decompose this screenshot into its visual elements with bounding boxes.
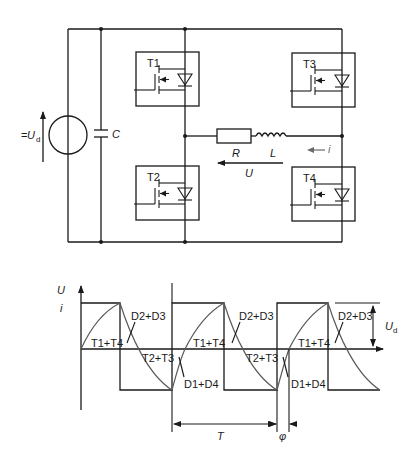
amplitude-label-sub: d	[393, 326, 397, 335]
current-label: i	[328, 143, 331, 155]
junction-dot	[183, 240, 187, 244]
switch-module-t2	[134, 166, 199, 220]
annotation-pointer	[179, 357, 184, 377]
circuit: = U d C R L U i	[21, 27, 344, 244]
junction-dot	[99, 240, 103, 244]
annotation-t1t4: T1+T4	[91, 337, 123, 349]
annotation-t1t4: T1+T4	[298, 337, 330, 349]
source-label: U	[27, 129, 35, 141]
current-arrow-head	[307, 147, 314, 153]
source-label-sub: d	[36, 135, 40, 144]
mosfet-arrow-icon	[316, 78, 322, 84]
switch-label-t3: T3	[303, 58, 316, 70]
inductor-label: L	[270, 147, 276, 159]
mosfet-arrow-icon	[316, 192, 322, 198]
annotation-d2d3: D2+D3	[239, 310, 274, 322]
phase-label: φ	[279, 430, 286, 442]
y-axis-label-current: i	[60, 302, 63, 314]
switch-label-t2: T2	[147, 171, 160, 183]
annotation-d2d3: D2+D3	[338, 310, 373, 322]
h-bridge-diagram: = U d C R L U i	[0, 0, 416, 453]
switch-module-t3	[290, 53, 355, 107]
waveform-plot: U i U d T φ T1+T4 D2+D3 T2+T3 D1+D4 T1	[57, 283, 397, 442]
amplitude-label: U	[385, 320, 393, 332]
voltage-waveform	[81, 303, 380, 390]
annotation-t2t3: T2+T3	[246, 352, 278, 364]
annotation-d1d4: D1+D4	[184, 378, 219, 390]
period-label: T	[217, 430, 225, 442]
junction-dot	[183, 27, 187, 31]
switch-module-t4	[290, 167, 355, 221]
switch-module-t1	[134, 52, 199, 106]
switch-label-t4: T4	[303, 172, 316, 184]
inductor-icon	[256, 133, 286, 136]
mosfet-arrow-icon	[160, 191, 166, 197]
annotation-d2d3: D2+D3	[131, 310, 166, 322]
current-waveform	[81, 303, 380, 390]
mosfet-arrow-icon	[160, 77, 166, 83]
y-axis-label-voltage: U	[57, 284, 65, 296]
junction-dot	[99, 27, 103, 31]
switch-label-t1: T1	[147, 57, 160, 69]
annotation-t1t4: T1+T4	[193, 337, 225, 349]
annotation-d1d4: D1+D4	[291, 378, 326, 390]
resistor-icon	[217, 129, 251, 143]
load-voltage-label: U	[245, 167, 253, 179]
capacitor-label: C	[112, 128, 120, 140]
annotation-t2t3: T2+T3	[142, 352, 174, 364]
resistor-label: R	[232, 147, 240, 159]
